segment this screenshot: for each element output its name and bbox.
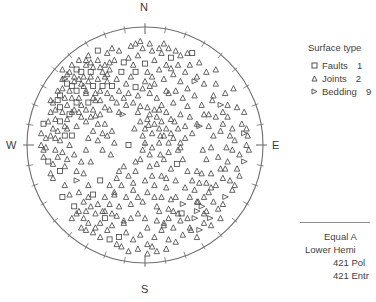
data-point-joint xyxy=(116,204,121,209)
data-point-fault xyxy=(190,50,195,55)
data-point-bedding xyxy=(192,79,198,84)
data-point-joint xyxy=(164,185,169,190)
data-point-joint xyxy=(173,48,178,53)
data-point-joint xyxy=(164,246,169,251)
perimeter-tick xyxy=(252,184,259,186)
data-point-joint xyxy=(95,57,100,62)
data-point-fault xyxy=(126,143,131,148)
legend-item-bedding: Bedding 9 xyxy=(308,85,376,98)
perimeter-tick xyxy=(104,32,106,39)
data-point-joint xyxy=(234,166,239,171)
data-point-joint xyxy=(79,159,84,164)
data-point-joint xyxy=(119,182,124,187)
cardinal-label-south: S xyxy=(141,283,149,295)
data-point-fault xyxy=(143,61,148,66)
data-point-joint xyxy=(102,104,107,109)
legend-title: Surface type xyxy=(308,42,376,53)
data-point-joint xyxy=(97,97,102,102)
data-point-joint xyxy=(145,225,150,230)
data-point-joint xyxy=(171,225,176,230)
data-point-fault xyxy=(69,133,74,138)
data-point-joint xyxy=(62,182,67,187)
data-point-joint xyxy=(123,81,128,86)
data-point-joint xyxy=(194,74,199,79)
data-point-fault xyxy=(91,192,96,197)
data-point-joint xyxy=(74,168,79,173)
data-point-joint xyxy=(220,175,225,180)
data-point-joint xyxy=(116,48,121,53)
perimeter-tick xyxy=(32,184,39,186)
data-point-joint xyxy=(138,38,143,43)
data-point-joint xyxy=(171,100,176,105)
legend-count-faults: 1 xyxy=(357,60,362,71)
data-point-joint xyxy=(109,45,114,50)
footer-divider xyxy=(300,222,370,223)
legend-label-faults: Faults xyxy=(322,60,348,71)
data-point-joint xyxy=(67,142,72,147)
data-point-joint xyxy=(159,194,164,199)
data-point-joint xyxy=(200,147,205,152)
data-point-joint xyxy=(154,218,159,223)
data-point-joint xyxy=(48,133,53,138)
data-point-joint xyxy=(142,215,147,220)
data-point-joint xyxy=(218,215,223,220)
data-point-joint xyxy=(131,100,136,105)
data-point-joint xyxy=(76,189,81,194)
data-point-bedding xyxy=(197,227,203,232)
data-point-fault xyxy=(60,194,65,199)
data-point-joint xyxy=(234,104,239,109)
data-point-joint xyxy=(154,161,159,166)
data-point-joint xyxy=(168,116,173,121)
data-point-joint xyxy=(199,102,204,107)
legend: Surface type Faults 1 Joints 2 xyxy=(308,42,376,98)
data-point-joint xyxy=(154,95,159,100)
data-point-joint xyxy=(225,102,230,107)
data-point-joint xyxy=(138,156,143,161)
perimeter-tick xyxy=(124,257,125,264)
data-point-joint xyxy=(161,76,166,81)
data-point-fault xyxy=(102,216,107,221)
data-point-joint xyxy=(140,86,145,91)
data-point-joint xyxy=(218,128,223,133)
data-point-joint xyxy=(147,152,152,157)
data-point-fault xyxy=(133,85,138,90)
data-point-joint xyxy=(109,211,114,216)
data-point-bedding xyxy=(242,159,248,164)
data-point-joint xyxy=(192,93,197,98)
data-point-joint xyxy=(152,57,157,62)
data-point-joint xyxy=(142,178,147,183)
data-point-joint xyxy=(152,81,157,86)
data-point-fault xyxy=(58,168,63,173)
legend-count-bedding: 9 xyxy=(366,86,371,97)
data-point-joint xyxy=(79,225,84,230)
data-point-joint xyxy=(107,201,112,206)
data-point-fault xyxy=(79,69,84,74)
data-point-bedding xyxy=(218,102,224,107)
legend-label-joints: Joints xyxy=(322,73,347,84)
data-point-joint xyxy=(105,90,110,95)
data-point-joint xyxy=(182,69,187,74)
data-point-joint xyxy=(88,204,93,209)
data-point-joint xyxy=(194,234,199,239)
data-point-fault xyxy=(55,98,60,103)
data-point-joint xyxy=(97,234,102,239)
data-point-joint xyxy=(171,71,176,76)
data-point-joint xyxy=(213,182,218,187)
data-point-joint xyxy=(95,121,100,126)
data-point-joint xyxy=(185,168,190,173)
data-point-joint xyxy=(38,130,43,135)
data-point-joint xyxy=(190,178,195,183)
footer-entry-count: 421 Entr xyxy=(300,269,376,282)
square-marker-icon xyxy=(308,62,320,69)
data-point-fault xyxy=(72,204,77,209)
data-point-joint xyxy=(197,60,202,65)
data-point-joint xyxy=(204,69,209,74)
data-point-joint xyxy=(64,102,69,107)
footer-hemisphere: Lower Hemi xyxy=(300,243,376,256)
data-point-joint xyxy=(145,189,150,194)
data-point-joint xyxy=(180,156,185,161)
data-point-fault xyxy=(74,100,79,105)
data-point-joint xyxy=(95,201,100,206)
data-point-bedding xyxy=(180,202,186,207)
data-point-joint xyxy=(168,166,173,171)
